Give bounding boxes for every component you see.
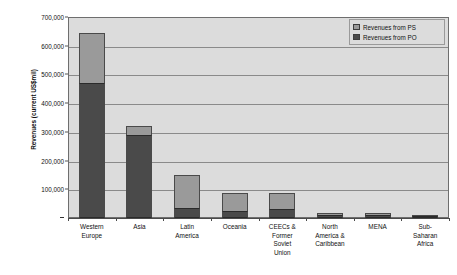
x-axis-tick-label-line: Caribbean: [306, 240, 354, 249]
x-axis-tick-mark: [68, 218, 69, 221]
legend-item: Revenues from PS: [353, 22, 442, 32]
x-axis-tick-label-line: America &: [306, 232, 354, 241]
chart-legend: Revenues from PSRevenues from PO: [349, 19, 445, 45]
legend-item-label: Revenues from PO: [363, 34, 417, 41]
bar-segment-revenues-from-po: [174, 208, 200, 218]
x-axis-tick-label-line: Oceania: [211, 223, 259, 232]
x-axis-tick-label: WesternEurope: [68, 223, 116, 240]
bar-group: [222, 17, 248, 218]
stacked-bar-chart: Revenues (current US$mil) 700,000600,000…: [0, 0, 457, 275]
bar-segment-revenues-from-ps: [126, 126, 152, 135]
x-axis-tick-mark: [259, 218, 260, 221]
y-axis-tick-label: 300,000: [41, 128, 64, 135]
x-axis-tick-label-line: Western: [68, 223, 116, 232]
bar-group: [126, 17, 152, 218]
y-axis-tick-label: 500,000: [41, 71, 64, 78]
x-axis-tick-label-line: North: [306, 223, 354, 232]
x-axis-tick-label-line: Asia: [116, 223, 164, 232]
x-axis-tick-label-line: Africa: [401, 240, 449, 249]
x-axis-tick-label-line: Europe: [68, 232, 116, 241]
bar-group: [365, 17, 391, 218]
y-axis-tick-label: 100,000: [41, 186, 64, 193]
y-axis-tick-label: 600,000: [41, 42, 64, 49]
legend-item-label: Revenues from PS: [363, 24, 416, 31]
x-axis-tick-label: CEECs &FormerSovietUnion: [259, 223, 307, 257]
x-axis-tick-label: Oceania: [211, 223, 259, 232]
bars-layer: [68, 17, 449, 218]
y-axis-tick-label: 700,000: [41, 14, 64, 21]
bar-segment-revenues-from-po: [269, 209, 295, 218]
bar-stack: [269, 193, 295, 218]
x-axis-tick-label: Sub-SaharanAfrica: [401, 223, 449, 249]
x-axis-tick-mark: [306, 218, 307, 221]
bar-group: [412, 17, 438, 218]
bar-segment-revenues-from-ps: [174, 175, 200, 208]
x-axis-tick-label: MENA: [354, 223, 402, 232]
bar-stack: [79, 33, 105, 218]
y-axis-zero-tick: [60, 217, 64, 218]
bar-segment-revenues-from-po: [126, 135, 152, 218]
bar-segment-revenues-from-ps: [222, 193, 248, 211]
legend-swatch-icon: [353, 34, 360, 40]
x-axis-tick-mark: [401, 218, 402, 221]
x-axis-tick-mark: [116, 218, 117, 221]
x-axis-tick-label-line: Sub-: [401, 223, 449, 232]
x-axis-tick-mark: [354, 218, 355, 221]
bar-group: [79, 17, 105, 218]
y-axis-tick-label: 200,000: [41, 157, 64, 164]
bar-group: [269, 17, 295, 218]
x-axis-tick-label: Asia: [116, 223, 164, 232]
x-axis-tick-mark: [163, 218, 164, 221]
x-axis-tick-mark: [211, 218, 212, 221]
x-axis-tick-label: NorthAmerica &Caribbean: [306, 223, 354, 249]
bar-stack: [174, 175, 200, 218]
bar-group: [317, 17, 343, 218]
x-axis-tick-mark: [449, 218, 450, 221]
x-axis-tick-label-line: Latin: [163, 223, 211, 232]
x-axis-tick-label-line: Union: [259, 249, 307, 258]
legend-item: Revenues from PO: [353, 32, 442, 42]
bar-group: [174, 17, 200, 218]
x-axis-tick-labels: WesternEuropeAsiaLatinAmericaOceaniaCEEC…: [68, 223, 449, 273]
bar-segment-revenues-from-ps: [79, 33, 105, 83]
bar-segment-revenues-from-ps: [269, 193, 295, 210]
x-axis-tick-label-line: Soviet: [259, 240, 307, 249]
y-axis-tick-label: 400,000: [41, 100, 64, 107]
y-axis-tick-labels: 700,000600,000500,000400,000300,000200,0…: [24, 17, 68, 218]
x-axis-tick-label: LatinAmerica: [163, 223, 211, 240]
bar-stack: [222, 193, 248, 218]
bar-segment-revenues-from-po: [222, 211, 248, 218]
legend-swatch-icon: [353, 24, 360, 30]
x-axis-tick-label-line: Former: [259, 232, 307, 241]
bar-segment-revenues-from-po: [79, 83, 105, 218]
x-axis-tick-label-line: America: [163, 232, 211, 241]
x-axis-tick-label-line: Saharan: [401, 232, 449, 241]
bar-stack: [126, 126, 152, 218]
x-axis-tick-label-line: CEECs &: [259, 223, 307, 232]
x-axis-tick-label-line: MENA: [354, 223, 402, 232]
